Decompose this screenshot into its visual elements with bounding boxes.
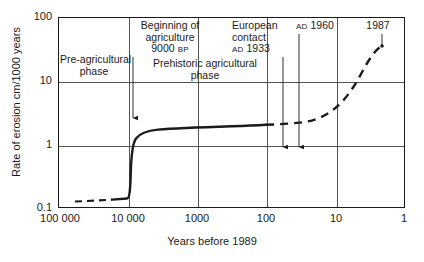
gridline-y-10 bbox=[59, 82, 404, 83]
ad1960-era: AD bbox=[296, 22, 308, 31]
european-value: 1933 bbox=[247, 42, 270, 54]
beginning-date: 9000BP bbox=[132, 43, 208, 56]
european-date: AD1933 bbox=[232, 43, 294, 56]
gridline-y-1 bbox=[59, 146, 404, 147]
annotation-prehistoric-agricultural-phase: Prehistoric agricultural phase bbox=[135, 58, 275, 81]
annotation-beginning-of-agriculture: Beginning of agriculture 9000BP bbox=[132, 20, 208, 56]
annotation-pre-agricultural-phase: Pre-agricultural phase bbox=[60, 54, 128, 77]
y-tick-10: 10 bbox=[40, 75, 52, 86]
pre-agricultural-line1: Pre-agricultural bbox=[60, 54, 128, 66]
y-axis-title: Rate of erosion cm/1000 years bbox=[10, 12, 22, 192]
gridline-x-10000 bbox=[129, 18, 130, 207]
erosion-rate-chart: 100 10 1 0.1 Rate of erosion cm/1000 yea… bbox=[0, 0, 424, 262]
y-axis: 100 10 1 0.1 bbox=[0, 0, 58, 208]
x-tick-1: 1 bbox=[401, 212, 407, 224]
prehistoric-line1: Prehistoric agricultural bbox=[135, 58, 275, 70]
european-line1: European bbox=[232, 20, 294, 32]
ad1960-value: 1960 bbox=[311, 19, 334, 31]
beginning-era: BP bbox=[178, 45, 189, 54]
x-tick-100: 100 bbox=[257, 212, 275, 224]
pre-agricultural-line2: phase bbox=[60, 66, 128, 78]
y-tick-100: 100 bbox=[34, 11, 52, 22]
x-tick-100000: 100 000 bbox=[40, 212, 80, 224]
year-1987-value: 1987 bbox=[366, 19, 389, 31]
annotation-ad-1960: AD1960 bbox=[296, 20, 356, 33]
beginning-value: 9000 bbox=[151, 42, 174, 54]
x-tick-10: 10 bbox=[330, 212, 342, 224]
european-era: AD bbox=[232, 45, 244, 54]
x-axis-title: Years before 1989 bbox=[0, 235, 424, 247]
beginning-line1: Beginning of bbox=[132, 20, 208, 32]
x-tick-10000: 10 000 bbox=[111, 212, 145, 224]
gridline-x-10 bbox=[337, 18, 338, 207]
y-tick-1: 1 bbox=[46, 139, 52, 150]
annotation-year-1987: 1987 bbox=[356, 20, 400, 32]
x-tick-1000: 1000 bbox=[185, 212, 209, 224]
prehistoric-line2: phase bbox=[135, 70, 275, 82]
annotation-european-contact: European contact AD1933 bbox=[232, 20, 294, 56]
